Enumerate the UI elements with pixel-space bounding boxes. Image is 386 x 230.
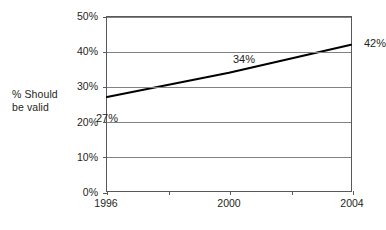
data-point-label: 34% [233,54,255,65]
x-tick-label: 2000 [199,198,259,209]
series-line-svg [107,17,351,191]
data-point-label: 27% [96,113,118,124]
y-tick-label: 0% [52,187,98,198]
y-tick-label: 30% [52,81,98,92]
x-tick-label: 2004 [322,198,382,209]
gridline-y [107,52,351,53]
y-tick-mark [103,157,107,158]
y-tick-mark [103,52,107,53]
gridline-y [107,17,351,18]
plot-area [106,16,352,192]
x-tick-mark [107,191,108,195]
y-tick-label: 20% [52,117,98,128]
x-tick-mark [292,191,293,195]
y-tick-label: 40% [52,46,98,57]
data-point-label: 42% [364,38,386,49]
gridline-y [107,122,351,123]
x-tick-mark [230,191,231,195]
y-axis-title-line-2: be valid [12,101,92,114]
x-tick-label: 1996 [76,198,136,209]
x-tick-mark [353,191,354,195]
gridline-y [107,87,351,88]
x-tick-mark [169,191,170,195]
y-tick-label: 10% [52,152,98,163]
y-tick-mark [103,87,107,88]
y-tick-label: 50% [52,11,98,22]
y-tick-mark [103,17,107,18]
gridline-y [107,157,351,158]
